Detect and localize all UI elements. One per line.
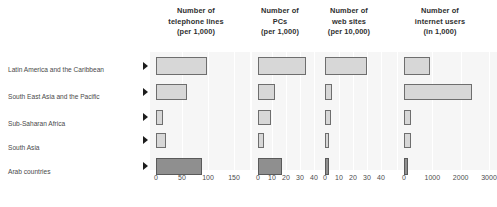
panel-title-line-2: telephone lines (156, 17, 236, 28)
axis-tick-label: 1000 (425, 174, 441, 181)
panel-title-line-1: Number of (313, 6, 385, 17)
bar (156, 57, 207, 75)
gridline (314, 52, 315, 170)
small-multiples-bar-chart: Number of telephone lines (per 1,000) Nu… (0, 0, 497, 207)
axis-tick-label: 30 (296, 174, 304, 181)
panel-title-line-1: Number of (156, 6, 236, 17)
axis-tick-label: 3000 (481, 174, 497, 181)
axis-tick-label: 0 (154, 174, 158, 181)
category-axis-labels: Latin America and the Caribbean South Ea… (0, 52, 137, 170)
category-label-sub-saharan-africa: Sub-Saharan Africa (8, 120, 134, 128)
category-label-arab-countries: Arab countries (8, 168, 134, 176)
panel-title-line-1: Number of (394, 6, 486, 17)
bar (325, 110, 331, 125)
bar (325, 57, 367, 75)
axis-tick-label: 150 (228, 174, 240, 181)
bar (325, 133, 329, 148)
bar (156, 84, 187, 100)
bar (156, 133, 166, 148)
panel-headers: Number of telephone lines (per 1,000) Nu… (0, 0, 497, 52)
gridline (461, 52, 462, 170)
panel-title-line-3: (per 10,000) (313, 27, 385, 38)
panel-title-line-2: internet users (394, 17, 486, 28)
gridline (208, 52, 209, 170)
axis-tick-label: 10 (335, 174, 343, 181)
bar (404, 133, 411, 148)
row-pointer-marker (143, 62, 148, 70)
plot-area (398, 52, 497, 170)
axis-tick-label: 20 (282, 174, 290, 181)
panel-title-internet-users: Number of internet users (in 1,000) (394, 6, 486, 38)
row-pointer-marker (143, 162, 148, 170)
category-label-latin-america: Latin America and the Caribbean (8, 66, 134, 74)
category-label-south-east-asia: South East Asia and the Pacific (8, 93, 134, 101)
bar (325, 84, 332, 100)
axis-tick-label: 20 (349, 174, 357, 181)
gridline (367, 52, 368, 170)
panel-title-pcs: Number of PCs (per 1,000) (246, 6, 314, 38)
panel-title-line-2: web sites (313, 17, 385, 28)
plot-area (252, 52, 322, 170)
axis-tick-label: 50 (178, 174, 186, 181)
panel-title-line-3: (per 1,000) (246, 27, 314, 38)
bar (258, 133, 264, 148)
panel-telephone-lines (150, 52, 250, 170)
bar (258, 110, 271, 125)
gridline (234, 52, 235, 170)
panel-pcs (252, 52, 322, 170)
panel-title-line-3: (in 1,000) (394, 27, 486, 38)
panel-title-web-sites: Number of web sites (per 10,000) (313, 6, 385, 38)
axis-tick-label: 10 (268, 174, 276, 181)
panel-title-telephone-lines: Number of telephone lines (per 1,000) (156, 6, 236, 38)
axis-tick-label: 100 (202, 174, 214, 181)
gridline (489, 52, 490, 170)
axis-tick-label: 40 (377, 174, 385, 181)
row-pointer-marker (143, 136, 148, 144)
value-axis-pcs: 010203040 (258, 170, 314, 192)
panel-title-line-2: PCs (246, 17, 314, 28)
bar (258, 57, 306, 75)
plot-area (150, 52, 250, 170)
value-axis-telephone-lines: 050100150 (156, 170, 234, 192)
axis-tick-label: 40 (310, 174, 318, 181)
axis-tick-label: 0 (402, 174, 406, 181)
value-axis-internet-users: 0100020003000 (404, 170, 489, 192)
category-label-south-asia: South Asia (8, 144, 134, 152)
panel-title-line-3: (per 1,000) (156, 27, 236, 38)
row-pointer-marker (143, 88, 148, 96)
gridline (432, 52, 433, 170)
axis-tick-label: 2000 (453, 174, 469, 181)
plot-area (319, 52, 397, 170)
axis-tick-label: 0 (256, 174, 260, 181)
axis-tick-label: 30 (363, 174, 371, 181)
row-pointer-marker (143, 113, 148, 121)
panel-internet-users (398, 52, 497, 170)
bar (404, 84, 472, 100)
bar (404, 57, 430, 75)
value-axis-web-sites: 010203040 (325, 170, 381, 192)
axis-tick-label: 0 (323, 174, 327, 181)
bar (156, 110, 163, 125)
panel-title-line-1: Number of (246, 6, 314, 17)
gridline (381, 52, 382, 170)
bar (404, 110, 411, 125)
panel-web-sites (319, 52, 397, 170)
bar (258, 84, 275, 100)
